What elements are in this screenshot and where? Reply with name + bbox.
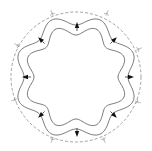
- arrowhead-icon: [75, 22, 79, 31]
- inner-arrow-group: [22, 22, 134, 137]
- tick-marker-icon: [100, 136, 107, 144]
- arrowhead-icon: [125, 75, 134, 79]
- tick-marker-icon: [103, 9, 110, 17]
- arrowhead-icon: [37, 110, 46, 119]
- tick-marker-icon: [134, 99, 141, 106]
- wavy-band-diagram: [0, 0, 152, 151]
- arrowhead-icon: [22, 75, 31, 79]
- tick-marker-icon: [135, 45, 143, 52]
- tick-marker-icon: [49, 9, 56, 16]
- inner-wavy-curve: [27, 28, 124, 125]
